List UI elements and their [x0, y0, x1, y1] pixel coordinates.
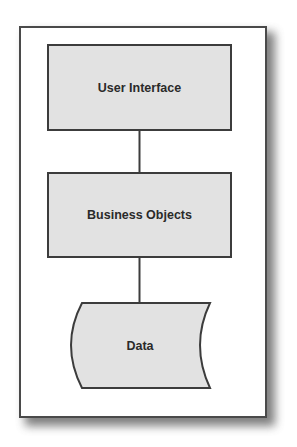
- node-user-interface: User Interface: [48, 45, 231, 130]
- node-data-label: Data: [126, 339, 154, 353]
- node-business-objects: Business Objects: [48, 173, 231, 257]
- node-user-interface-label: User Interface: [98, 81, 181, 95]
- architecture-diagram: User Interface Business Objects Data: [0, 0, 297, 447]
- node-business-objects-label: Business Objects: [87, 208, 192, 222]
- node-data: Data: [71, 303, 210, 388]
